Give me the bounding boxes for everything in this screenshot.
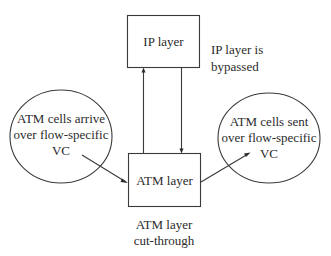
sent-line-1: ATM cells sent xyxy=(230,114,309,129)
arrive-line-3: VC xyxy=(52,143,70,158)
cut-through-annotation: ATM layer cut-through xyxy=(134,217,195,248)
cut-through-line-2: cut-through xyxy=(134,233,195,248)
ip-layer-node: IP layer xyxy=(128,16,200,68)
arrive-line-1: ATM cells arrive xyxy=(17,111,105,126)
bypass-annotation: IP layer is bypassed xyxy=(211,42,263,74)
arrowhead-icon xyxy=(142,68,146,73)
bypass-line-2: bypassed xyxy=(211,59,259,74)
diagram-canvas: IP layer IP layer is bypassed ATM cells … xyxy=(0,0,331,256)
arrowhead-icon xyxy=(180,149,184,154)
atm-layer-label: ATM layer xyxy=(136,173,193,188)
sent-line-2: over flow-specific xyxy=(222,130,317,145)
arrive-line-2: over flow-specific xyxy=(14,127,109,142)
arrive-circle-node: ATM cells arrive over flow-specific VC xyxy=(10,90,112,183)
cut-through-line-1: ATM layer xyxy=(136,217,193,232)
sent-line-3: VC xyxy=(260,146,278,161)
edge-atm-to-ip xyxy=(142,68,146,154)
ip-layer-label: IP layer xyxy=(143,34,184,49)
atm-layer-node: ATM layer xyxy=(129,154,201,207)
bypass-line-1: IP layer is xyxy=(211,42,263,57)
sent-circle-node: ATM cells sent over flow-specific VC xyxy=(218,93,320,183)
edge-ip-to-atm xyxy=(180,67,184,154)
